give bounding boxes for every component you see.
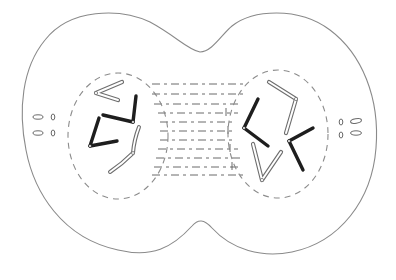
chromosome-light (94, 82, 122, 100)
spindle-fibers (152, 84, 244, 175)
chromosome-light (253, 144, 281, 182)
centrioles-right (339, 118, 362, 138)
centriole-pair (33, 114, 55, 120)
chromosome-light (269, 82, 298, 133)
diagram-canvas (0, 0, 396, 280)
cell-membrane (22, 13, 376, 254)
chromosomes-right (243, 82, 314, 182)
centriole-icon (51, 130, 55, 136)
centriole-pair (339, 131, 361, 138)
centriole-icon (51, 114, 55, 120)
centriole-icon (33, 115, 43, 119)
chromosomes-left (89, 82, 140, 172)
centriole-icon (339, 119, 343, 125)
centriole-icon (33, 131, 43, 135)
chromosome-light (110, 127, 139, 172)
centriole-pair (339, 118, 362, 125)
mitosis-diagram: Animal cell in late anaphase / early tel… (0, 0, 396, 280)
centriole-icon (350, 118, 362, 124)
membrane-outline (22, 13, 376, 254)
chromosome-dark (89, 118, 118, 148)
nucleus-left-envelope (68, 73, 168, 199)
centriole-pair (33, 130, 55, 136)
chromosome-dark (243, 99, 269, 146)
centriole-icon (339, 132, 343, 138)
centriole-icon (351, 131, 362, 135)
centrioles-left (33, 114, 55, 136)
chromosome-dark (288, 128, 314, 170)
